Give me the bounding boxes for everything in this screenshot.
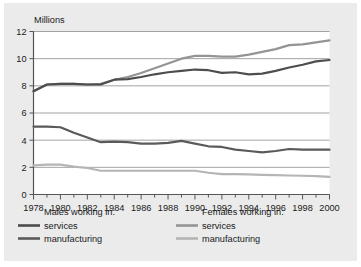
x-tick-label-1988: 1988 bbox=[158, 203, 178, 213]
y-axis-label: Millions bbox=[34, 15, 65, 25]
y-tick-label-0: 0 bbox=[21, 190, 26, 200]
x-tick-label-1986: 1986 bbox=[131, 203, 151, 213]
x-tick-label-1998: 1998 bbox=[292, 203, 312, 213]
chart-panel: Millions02468101219781980198219841986198… bbox=[4, 3, 357, 261]
y-tick-label-8: 8 bbox=[21, 81, 26, 91]
legend-label-1-1: manufacturing bbox=[202, 234, 260, 244]
y-tick-label-10: 10 bbox=[16, 54, 26, 64]
y-tick-label-6: 6 bbox=[21, 108, 26, 118]
legend-label-0-1: manufacturing bbox=[44, 234, 102, 244]
line-chart: Millions02468101219781980198219841986198… bbox=[4, 3, 357, 261]
chart-figure: Millions02468101219781980198219841986198… bbox=[0, 0, 361, 267]
legend-label-0-0: services bbox=[44, 221, 78, 231]
x-tick-label-2000: 2000 bbox=[319, 203, 339, 213]
y-tick-label-2: 2 bbox=[21, 163, 26, 173]
legend-heading-1: Females working in: bbox=[202, 207, 284, 217]
y-tick-label-12: 12 bbox=[16, 27, 26, 37]
x-tick-label-1978: 1978 bbox=[23, 203, 43, 213]
legend-heading-0: Males working in: bbox=[44, 207, 115, 217]
legend-label-1-0: services bbox=[202, 221, 236, 231]
y-tick-label-4: 4 bbox=[21, 136, 26, 146]
